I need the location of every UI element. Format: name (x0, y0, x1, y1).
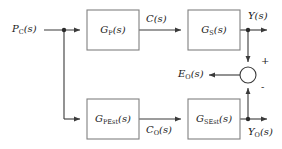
summing-junction (240, 67, 256, 83)
sum-sign-minus: - (261, 82, 264, 92)
branch-dot-input (62, 28, 66, 32)
block-diagram: GP(s) GS(s) GPEst(s) GSEst(s) PC(s) C(s)… (0, 0, 282, 149)
branch-dot-lower (246, 117, 250, 121)
block-label-gp: GP(s) (87, 25, 139, 35)
block-label-gpest: GPEst(s) (87, 114, 139, 124)
signal-label-pc: PC(s) (12, 24, 37, 34)
diagram-canvas (0, 0, 282, 149)
signal-label-co: CO(s) (146, 125, 172, 135)
branch-dot-output (246, 28, 250, 32)
signal-label-y: Y(s) (248, 11, 268, 21)
signal-label-yo: YO(s) (248, 127, 273, 137)
sum-sign-plus: + (261, 56, 269, 66)
block-label-gs: GS(s) (188, 25, 240, 35)
block-label-gsest: GSEst(s) (188, 114, 240, 124)
signal-label-eo: EO(s) (178, 69, 204, 79)
signal-label-c: C(s) (146, 14, 167, 24)
